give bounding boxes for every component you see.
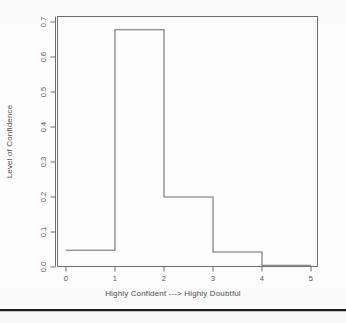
histogram-step-plot xyxy=(57,16,318,267)
x-axis-title: Highly Confident ---> Highly Doubtful xyxy=(0,289,346,298)
y-tick-label: 0.1 xyxy=(39,227,48,238)
y-axis-title-wrapper: Level of Confidence xyxy=(0,0,20,283)
y-tick-label: 0.2 xyxy=(39,192,48,203)
x-tick-label: 0 xyxy=(64,274,68,283)
x-tick-label: 3 xyxy=(211,274,215,283)
x-axis-ticks xyxy=(0,265,346,289)
y-tick-label: 0.6 xyxy=(39,52,48,63)
figure-canvas: 0.00.10.20.30.40.50.60.7 012345 Highly C… xyxy=(0,0,346,323)
axis-box xyxy=(58,17,318,267)
plot-area xyxy=(57,16,318,267)
histogram-outline xyxy=(66,30,311,266)
x-axis: 012345 xyxy=(0,265,346,289)
x-tick-label: 4 xyxy=(260,274,264,283)
y-axis-title: Level of Confidence xyxy=(6,105,15,179)
y-tick-label: 0.4 xyxy=(39,122,48,133)
y-tick-label: 0.5 xyxy=(39,87,48,98)
y-tick-label: 0.3 xyxy=(39,157,48,168)
y-tick-label: 0.7 xyxy=(39,17,48,28)
bottom-divider-shadow xyxy=(0,311,346,312)
x-tick-label: 2 xyxy=(162,274,166,283)
x-tick-label: 5 xyxy=(309,274,313,283)
x-tick-label: 1 xyxy=(113,274,117,283)
